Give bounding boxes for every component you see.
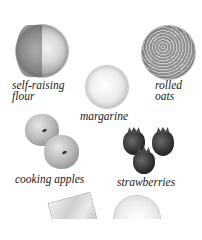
margarine-tub-image (86, 66, 128, 108)
strawberry-image (133, 151, 155, 174)
bowl-partial-image (114, 196, 160, 219)
cooking-apples-label: cooking apples (15, 174, 84, 185)
strawberry-image (152, 131, 174, 156)
bag-partial-image (49, 193, 97, 219)
oats-label: rolled oats (155, 80, 182, 102)
margarine-label: margarine (80, 111, 128, 122)
apple-image (44, 135, 79, 169)
strawberries-label: strawberries (117, 177, 175, 188)
oats-bowl-image (142, 26, 195, 79)
flour-label: self-raising flour (12, 80, 64, 102)
flour-bowl-image (16, 25, 68, 77)
